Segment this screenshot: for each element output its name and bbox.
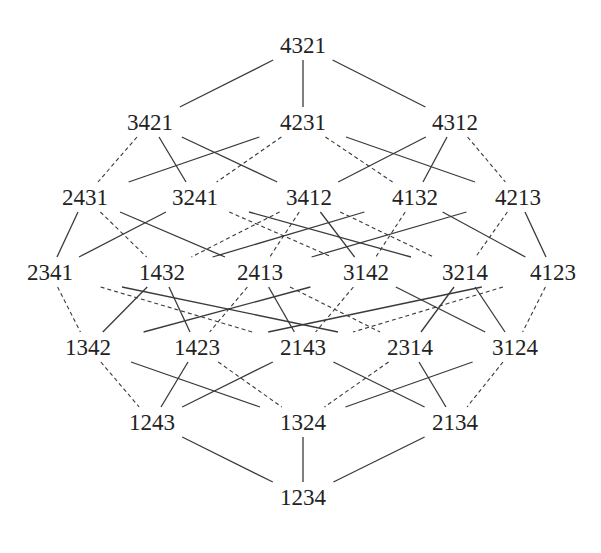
node-4312: 4312 [432, 110, 478, 135]
edge-3421-3241 [159, 137, 186, 182]
edge-3421-2431 [98, 137, 137, 182]
node-3142: 3142 [343, 260, 389, 285]
node-3421: 3421 [127, 110, 173, 135]
edge-2431-2341 [57, 212, 78, 257]
node-3214: 3214 [442, 260, 489, 285]
node-1423: 1423 [174, 335, 220, 360]
edge-4321-3421 [180, 60, 273, 107]
edge-3124-1324 [345, 362, 472, 407]
edge-4123-3124 [523, 287, 546, 332]
edge-4231-4213 [346, 137, 475, 182]
edge-2314-2134 [419, 362, 446, 407]
edge-4132-4123 [443, 212, 526, 257]
node-1243: 1243 [129, 410, 175, 435]
edge-3142-2143 [316, 287, 354, 332]
node-3241: 3241 [172, 185, 218, 210]
edge-3142-1342 [144, 287, 311, 332]
edge-2413-2143 [269, 287, 295, 332]
edge-4312-4132 [423, 137, 447, 182]
edge-3241-3142 [229, 212, 332, 257]
node-1432: 1432 [139, 260, 185, 285]
edge-4312-3412 [338, 137, 426, 182]
node-1324: 1324 [280, 410, 327, 435]
node-2143: 2143 [280, 335, 326, 360]
node-4231: 4231 [280, 110, 326, 135]
node-4123: 4123 [530, 260, 576, 285]
edge-1432-1423 [169, 287, 190, 332]
node-1342: 1342 [65, 335, 111, 360]
node-2341: 2341 [27, 260, 73, 285]
edge-3124-2134 [467, 362, 503, 407]
edge-1342-1243 [101, 362, 139, 407]
edge-3142-3124 [396, 287, 485, 332]
edge-2341-1342 [58, 287, 81, 332]
edge-4231-3241 [217, 137, 282, 182]
edge-1423-1243 [161, 362, 188, 407]
edge-3241-2341 [79, 212, 166, 257]
edge-2134-1234 [333, 437, 424, 482]
node-layer: 4321342142314312243132413412413242132341… [27, 33, 576, 510]
edge-3421-3412 [182, 137, 277, 182]
node-4321: 4321 [280, 33, 326, 58]
node-2413: 2413 [237, 260, 283, 285]
node-2314: 2314 [387, 335, 434, 360]
node-2134: 2134 [432, 410, 479, 435]
edge-2431-2413 [120, 212, 225, 257]
edge-1432-1342 [103, 287, 147, 332]
edge-4312-4213 [468, 137, 506, 182]
edge-4231-2431 [129, 137, 260, 182]
edge-4321-4312 [333, 60, 426, 107]
edge-4213-4123 [525, 212, 546, 257]
edge-1243-1234 [182, 437, 273, 482]
node-1234: 1234 [280, 485, 327, 510]
node-3412: 3412 [286, 185, 332, 210]
edge-3412-3142 [320, 212, 354, 257]
edge-4213-3214 [476, 212, 508, 257]
node-4213: 4213 [495, 185, 541, 210]
node-2431: 2431 [62, 185, 108, 210]
hasse-diagram: 4321342142314312243132413412413242132341… [0, 0, 601, 553]
node-4132: 4132 [392, 185, 438, 210]
node-3124: 3124 [492, 335, 539, 360]
